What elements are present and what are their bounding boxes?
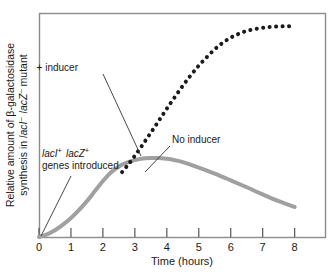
y-axis-laci-gene: lacI (17, 121, 29, 137)
y-axis-title-suffix: mutant (17, 54, 29, 89)
annotation-lacz-superscript: + (85, 146, 90, 155)
annotation-lacz-gene: lacZ (66, 148, 86, 159)
x-axis-tick-labels: 012345678 (36, 241, 298, 253)
chart-canvas: 012345678 + inducer No inducer lacI+lacZ… (0, 0, 336, 275)
x-tick-label-8: 8 (292, 241, 298, 253)
figure-container: 012345678 + inducer No inducer lacI+lacZ… (0, 0, 336, 275)
annotation-plus-inducer: + inducer (37, 62, 79, 73)
annotation-no-inducer: No inducer (172, 134, 221, 145)
x-axis-ticks (39, 228, 295, 237)
x-tick-label-3: 3 (132, 241, 138, 253)
annotation-laci-gene: lacI (42, 148, 58, 159)
x-tick-label-2: 2 (100, 241, 106, 253)
annotation-genes-introduced-line1: lacI+lacZ+ (42, 146, 90, 160)
leader-line-plus-inducer (103, 74, 141, 156)
annotation-genes-introduced-line2: genes introduced (42, 160, 119, 171)
y-axis-title-line2: synthesis in lacI–lacZ– mutant (16, 54, 30, 195)
y-axis-title-line1: Relative amount of β-galactosidase (4, 43, 16, 207)
y-axis-laci-superscript: – (16, 117, 25, 122)
x-tick-label-7: 7 (260, 241, 266, 253)
x-tick-label-6: 6 (228, 241, 234, 253)
x-tick-label-1: 1 (68, 241, 74, 253)
y-axis-lacz-gene: lacZ (17, 93, 29, 113)
annotation-laci-superscript: + (58, 146, 63, 155)
x-tick-label-5: 5 (196, 241, 202, 253)
x-axis-title: Time (hours) (151, 255, 213, 267)
y-axis-title: Relative amount of β-galactosidase synth… (4, 43, 29, 207)
y-axis-title-prefix: synthesis in (17, 138, 29, 196)
series-plus-inducer-line (122, 26, 295, 172)
x-tick-label-4: 4 (164, 241, 170, 253)
leader-line-genes-introduced (41, 176, 71, 236)
x-tick-label-0: 0 (36, 241, 42, 253)
